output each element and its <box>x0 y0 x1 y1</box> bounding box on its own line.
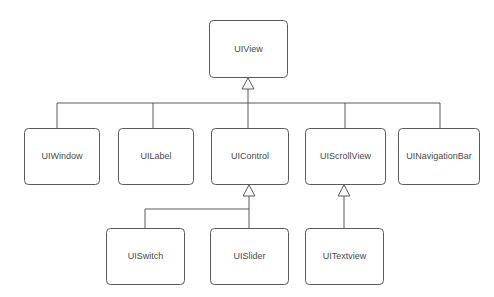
node-uinavigationbar[interactable]: UINavigationBar <box>399 129 480 185</box>
diagram-canvas: UIView UIWindow UILabel UIControl UIScro… <box>0 0 494 297</box>
class-hierarchy-diagram: UIView UIWindow UILabel UIControl UIScro… <box>0 0 494 297</box>
node-uiwindow-label: UIWindow <box>41 151 83 161</box>
node-uicontrol-label: UIControl <box>231 151 269 161</box>
edge-group-uiscrollview-children <box>338 185 350 228</box>
node-uiwindow[interactable]: UIWindow <box>25 129 100 185</box>
inheritance-arrow-uiscrollview <box>338 185 350 196</box>
inheritance-arrow-uicontrol <box>243 185 255 196</box>
node-uinavigationbar-label: UINavigationBar <box>406 151 472 161</box>
inheritance-arrow-uiview <box>242 78 254 89</box>
node-uislider-label: UISlider <box>233 251 265 261</box>
node-uiscrollview-label: UIScrollView <box>320 151 371 161</box>
node-uicontrol[interactable]: UIControl <box>212 129 289 185</box>
node-uiswitch-label: UISwitch <box>128 251 164 261</box>
edge-group-uiview-children <box>57 78 440 128</box>
node-uislider[interactable]: UISlider <box>211 229 289 285</box>
node-uiview-label: UIView <box>234 44 263 54</box>
node-uitextview-label: UITextview <box>323 251 367 261</box>
node-uiswitch[interactable]: UISwitch <box>107 229 185 285</box>
node-uitextview[interactable]: UITextview <box>306 229 384 285</box>
node-uiview[interactable]: UIView <box>210 21 288 78</box>
node-uilabel-label: UILabel <box>140 151 171 161</box>
node-uilabel[interactable]: UILabel <box>119 129 194 185</box>
node-uiscrollview[interactable]: UIScrollView <box>306 129 386 185</box>
edge-group-uicontrol-children <box>145 185 255 228</box>
